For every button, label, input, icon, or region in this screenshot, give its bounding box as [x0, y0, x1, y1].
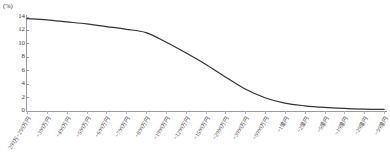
plot-area	[0, 0, 390, 167]
data-series-line	[27, 19, 384, 110]
line-chart: (%) 14121086420 200万~250万円~300万円~400万円~5…	[0, 0, 390, 167]
